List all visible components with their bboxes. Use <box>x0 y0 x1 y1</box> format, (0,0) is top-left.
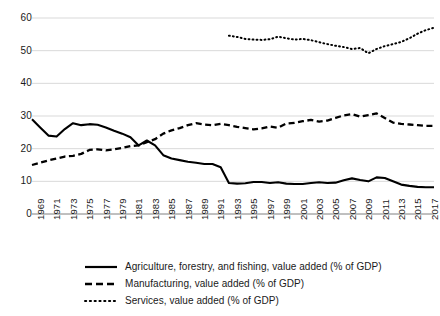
x-axis-tick-label: 2009 <box>364 198 374 220</box>
y-axis-tick-label: 10 <box>6 176 32 186</box>
y-axis-tick-label: 20 <box>6 144 32 154</box>
x-axis-tick-label: 1999 <box>282 198 292 220</box>
x-axis-tick-label: 1989 <box>200 198 210 220</box>
x-axis-tick-label: 1985 <box>167 198 177 220</box>
x-axis-tick-label: 2003 <box>315 198 325 220</box>
legend-item-services: Services, value added (% of GDP) <box>84 294 279 308</box>
legend-label-manufacturing: Manufacturing, value added (% of GDP) <box>125 278 304 290</box>
x-axis-tick-label: 1975 <box>85 198 95 220</box>
legend-item-agriculture: Agriculture, forestry, and fishing, valu… <box>84 260 382 274</box>
legend-swatch-dashed-icon <box>84 278 118 290</box>
legend-swatch-dotted-icon <box>84 295 118 307</box>
plot-area: 0102030405060 <box>0 0 438 222</box>
x-axis-tick-label: 1971 <box>52 198 62 220</box>
x-axis-tick-label: 1995 <box>249 198 259 220</box>
x-axis-tick-label: 2001 <box>299 198 309 220</box>
y-axis-tick-label: 40 <box>6 78 32 88</box>
legend-item-manufacturing: Manufacturing, value added (% of GDP) <box>84 277 304 291</box>
x-axis-tick-label: 2013 <box>397 198 407 220</box>
y-axis-tick-label: 50 <box>6 46 32 56</box>
legend-swatch-solid-icon <box>84 261 118 273</box>
x-axis-tick-label: 1987 <box>184 198 194 220</box>
legend-label-services: Services, value added (% of GDP) <box>125 295 279 307</box>
x-axis-tick-label: 1997 <box>266 198 276 220</box>
legend-label-agriculture: Agriculture, forestry, and fishing, valu… <box>125 261 382 273</box>
x-axis-tick-label: 2015 <box>413 198 423 220</box>
y-axis-tick-label: 60 <box>6 13 32 23</box>
plot-svg <box>0 0 438 222</box>
x-axis-tick-label: 2007 <box>348 198 358 220</box>
series-line <box>229 28 434 53</box>
x-axis-tick-label: 1993 <box>233 198 243 220</box>
x-axis-tick-labels: 1969197119731975197719791981198319851987… <box>0 214 438 260</box>
x-axis-tick-label: 1983 <box>151 198 161 220</box>
x-axis-tick-label: 1973 <box>69 198 79 220</box>
x-axis-tick-label: 2011 <box>381 199 391 220</box>
x-axis-tick-label: 1969 <box>36 198 46 220</box>
series-line <box>32 119 434 187</box>
y-axis-tick-labels: 0102030405060 <box>0 0 32 222</box>
x-axis-tick-label: 1979 <box>118 198 128 220</box>
series-line <box>32 113 434 165</box>
x-axis-tick-label: 1981 <box>134 198 144 220</box>
x-axis-tick-label: 2017 <box>430 198 440 220</box>
y-axis-tick-label: 30 <box>6 111 32 121</box>
x-axis-tick-label: 1991 <box>216 198 226 220</box>
chart-legend: Agriculture, forestry, and fishing, valu… <box>0 258 438 316</box>
x-axis-tick-label: 1977 <box>102 198 112 220</box>
x-axis-tick-label: 2005 <box>331 198 341 220</box>
